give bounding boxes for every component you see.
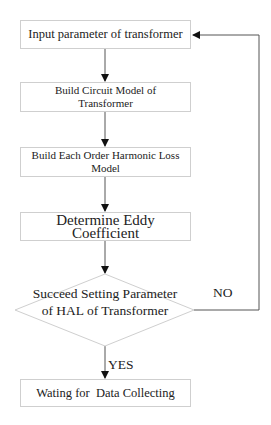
step-label: Build Circuit Model of Transformer	[41, 84, 170, 110]
decision-label: Succeed Setting Parameter of HAL of Tran…	[30, 285, 180, 319]
arrow-no-feedback	[193, 35, 259, 310]
step-determine-eddy-coefficient: Determine Eddy Coefficient	[20, 212, 191, 241]
no-label: NO	[213, 285, 233, 301]
step-label: Build Each Order Harmonic Loss Model	[25, 149, 186, 175]
yes-label: YES	[108, 357, 134, 373]
step-label: Input parameter of transformer	[28, 28, 182, 41]
step-input-parameter: Input parameter of transformer	[20, 20, 191, 49]
step-build-circuit-model: Build Circuit Model of Transformer	[20, 82, 191, 112]
step-build-harmonic-loss-model: Build Each Order Harmonic Loss Model	[20, 147, 191, 177]
step-label: Determine Eddy Coefficient	[21, 214, 190, 240]
step-waiting-data-collecting: Wating for Data Collecting	[20, 379, 191, 407]
step-label: Wating for Data Collecting	[36, 387, 175, 400]
